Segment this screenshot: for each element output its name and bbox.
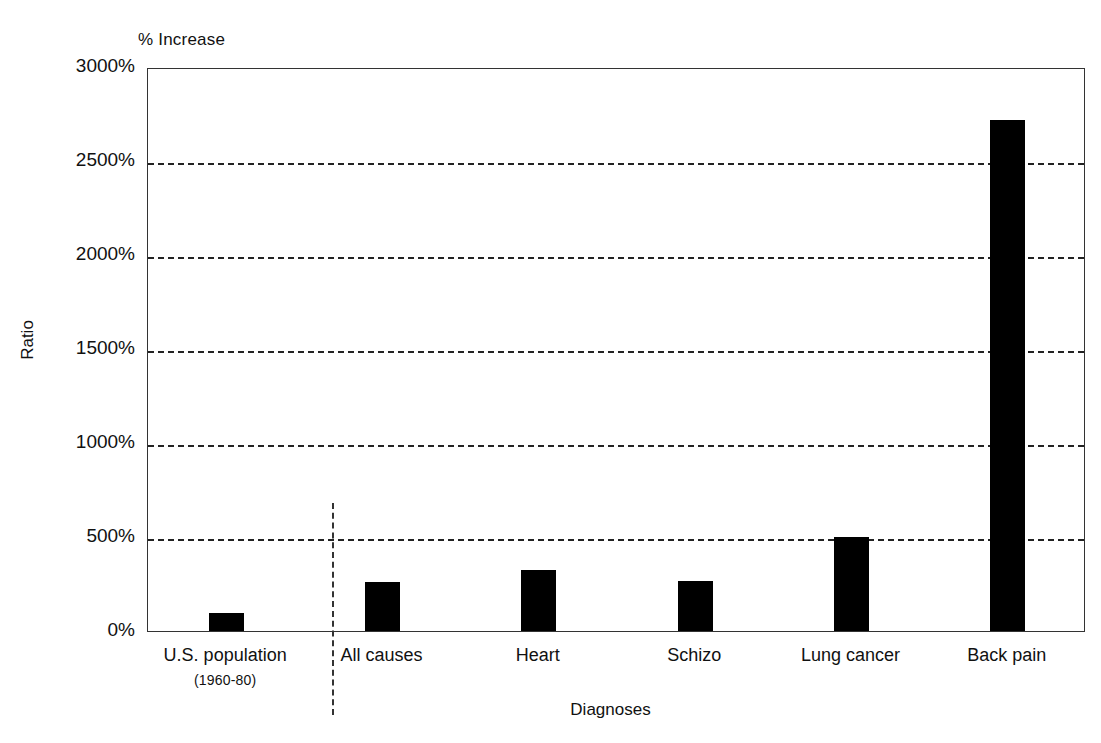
y-axis-tick-label: 2000%: [0, 243, 135, 265]
x-axis-tick-label-text: Schizo: [667, 645, 721, 665]
x-axis-tick-label: Back pain: [897, 645, 1101, 666]
bar-chart-figure: % Increase Ratio U.S. population(1960-80…: [0, 0, 1101, 743]
gridline: [148, 445, 1084, 447]
y-axis-tick-label: 500%: [0, 525, 135, 547]
bar: [209, 613, 244, 631]
x-axis-tick-sublabel: (1960-80): [115, 672, 335, 688]
y-axis-tick-label: 1500%: [0, 337, 135, 359]
y-axis-tick-label: 3000%: [0, 55, 135, 77]
gridline: [148, 163, 1084, 165]
y-axis-tick-label: 2500%: [0, 149, 135, 171]
x-axis-tick-label-text: Back pain: [967, 645, 1046, 665]
y-axis-tick-label: 0%: [0, 619, 135, 641]
gridline: [148, 257, 1084, 259]
gridline: [148, 539, 1084, 541]
y-axis-tick-label: 1000%: [0, 431, 135, 453]
gridline: [148, 351, 1084, 353]
x-axis-tick-label-text: Lung cancer: [801, 645, 900, 665]
x-axis-title-text: Diagnoses: [570, 700, 650, 719]
x-axis-tick-label-text: All causes: [340, 645, 422, 665]
bar: [990, 120, 1025, 631]
plot-area: [147, 68, 1085, 632]
bar: [365, 582, 400, 631]
bar: [834, 537, 869, 631]
x-axis-tick-label-text: Heart: [516, 645, 560, 665]
x-axis-title: Diagnoses: [0, 700, 1101, 720]
bar: [521, 570, 556, 631]
y-axis-unit-label: % Increase: [138, 30, 225, 50]
x-axis-tick-label-text: U.S. population: [164, 645, 287, 665]
bar: [678, 581, 713, 631]
